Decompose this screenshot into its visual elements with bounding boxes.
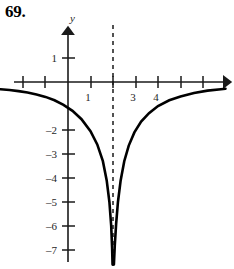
y-axis-label: y [69, 12, 75, 24]
graph-canvas: 1 3 4 1 –2 –3 –4 –5 –6 –7 y [0, 0, 234, 269]
figure-container: 69. [0, 0, 234, 269]
y-tick-label-minus-3: –3 [45, 148, 58, 160]
y-tick-label-minus-4: –4 [45, 172, 58, 184]
y-tick-label-minus-7: –7 [45, 244, 58, 256]
y-tick-label-minus-6: –6 [45, 220, 58, 232]
x-tick-label-1: 1 [85, 91, 91, 103]
y-tick-label-1: 1 [52, 52, 58, 64]
x-tick-label-3: 3 [130, 91, 136, 103]
curve-right-branch [114, 89, 226, 265]
x-tick-label-4: 4 [153, 91, 159, 103]
y-tick-label-minus-2: –2 [45, 124, 57, 136]
y-tick-label-minus-5: –5 [45, 196, 58, 208]
